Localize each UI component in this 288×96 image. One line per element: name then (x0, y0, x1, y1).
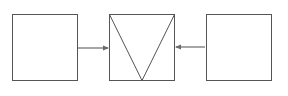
left-box (13, 15, 78, 81)
diagram-canvas (0, 0, 288, 96)
right-box (207, 15, 272, 81)
center-box (110, 15, 175, 81)
